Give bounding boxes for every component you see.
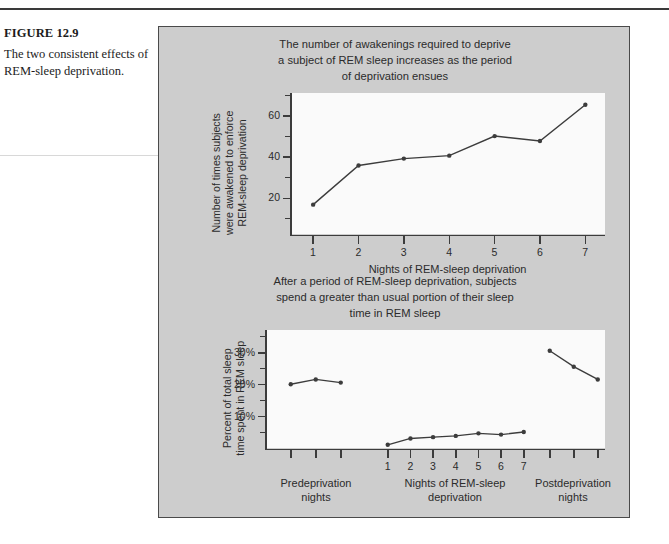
group-label-deprivation: Nights of REM-sleep deprivation	[391, 476, 519, 505]
chart-rem-percent: Percent of total sleep time spent in REM…	[159, 330, 631, 480]
chart-awakenings: Number of times subjects were awakened t…	[159, 93, 631, 265]
panel-title-line: time in REM sleep	[230, 306, 560, 322]
figure-box: The number of awakenings required to dep…	[158, 26, 630, 518]
group-label-postdeprivation: Postdeprivation nights	[517, 476, 629, 505]
panel-title-line: After a period of REM-sleep deprivation,…	[230, 274, 560, 290]
figure-caption-text: The two consistent effects of REM-sleep …	[4, 46, 152, 79]
figure-number: FIGURE 12.9	[4, 26, 152, 41]
panel-title-awakenings: The number of awakenings required to dep…	[230, 37, 560, 85]
panel-title-line: The number of awakenings required to dep…	[230, 37, 560, 53]
group-label-predeprivation: Predeprivation nights	[260, 476, 372, 505]
x-axis-label-awakenings: Nights of REM-sleep deprivation	[290, 263, 605, 275]
panel-title-line: spend a greater than usual portion of th…	[230, 290, 560, 306]
panel-awakenings: The number of awakenings required to dep…	[159, 37, 631, 265]
series-rem-percent	[159, 330, 631, 480]
figure-caption: FIGURE 12.9 The two consistent effects o…	[4, 26, 152, 79]
series-awakenings	[159, 93, 631, 268]
panel-title-line: a subject of REM sleep increases as the …	[230, 53, 560, 69]
panel-title-rem-percent: After a period of REM-sleep deprivation,…	[230, 274, 560, 322]
panel-rem-percent: After a period of REM-sleep deprivation,…	[159, 274, 631, 480]
page-top-rule	[0, 8, 669, 10]
page-margin-rule	[0, 155, 158, 156]
panel-title-line: of deprivation ensues	[230, 69, 560, 85]
